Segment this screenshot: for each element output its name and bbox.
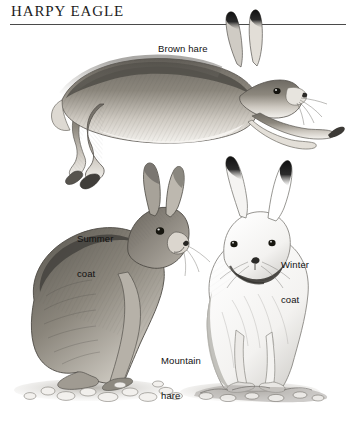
label-summer-coat: Summer coat bbox=[77, 210, 114, 302]
label-brown-hare: Brown hare bbox=[158, 43, 208, 55]
label-winter-coat-line1: Winter bbox=[281, 259, 309, 271]
label-summer-coat-line2: coat bbox=[77, 268, 114, 280]
label-mountain-hare-line2: hare bbox=[161, 390, 201, 402]
label-winter-coat: Winter coat bbox=[281, 236, 309, 328]
label-mountain-hare-line1: Mountain bbox=[161, 355, 201, 367]
label-mountain-hare: Mountain hare bbox=[161, 332, 201, 423]
label-summer-coat-line1: Summer bbox=[77, 233, 114, 245]
label-winter-coat-line2: coat bbox=[281, 294, 309, 306]
encyclopedia-page: HARPY EAGLE bbox=[0, 0, 352, 423]
brown-hare-illustration bbox=[51, 10, 344, 189]
